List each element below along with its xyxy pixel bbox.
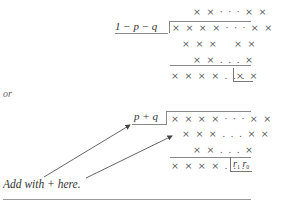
add-with-plus-label: Add with + here. [3, 178, 81, 190]
bottom-rule [3, 199, 251, 200]
arrow-to-row2 [86, 136, 172, 178]
arrow-to-divisor [44, 125, 130, 177]
annotation-arrows [0, 0, 283, 203]
